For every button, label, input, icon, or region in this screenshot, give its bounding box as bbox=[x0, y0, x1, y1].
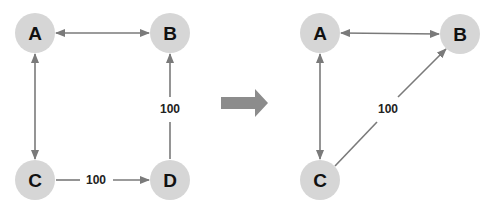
svg-text:A: A bbox=[28, 23, 42, 44]
svg-text:D: D bbox=[163, 170, 177, 191]
node-a: A bbox=[15, 13, 55, 53]
node-b: B bbox=[150, 13, 190, 53]
node-b: B bbox=[440, 14, 480, 54]
svg-text:B: B bbox=[453, 24, 467, 45]
node-c: C bbox=[300, 160, 340, 200]
svg-text:B: B bbox=[163, 23, 177, 44]
right-arrow-icon bbox=[221, 89, 268, 117]
edge-c-b-head bbox=[398, 49, 446, 97]
before-graph: 100 100 A B C D bbox=[15, 13, 190, 200]
svg-text:C: C bbox=[28, 170, 42, 191]
edge-a-b bbox=[341, 33, 439, 34]
edge-c-b bbox=[335, 122, 377, 166]
svg-text:A: A bbox=[313, 23, 327, 44]
edge-label-d-b: 100 bbox=[160, 102, 180, 116]
node-d: D bbox=[150, 160, 190, 200]
svg-text:C: C bbox=[313, 170, 327, 191]
edge-label-c-b: 100 bbox=[378, 102, 398, 116]
node-a: A bbox=[300, 13, 340, 53]
graph-diagram: 100 100 A B C D 100 bbox=[0, 0, 494, 204]
after-graph: 100 A B C bbox=[300, 13, 480, 200]
edge-label-c-d: 100 bbox=[86, 173, 106, 187]
node-c: C bbox=[15, 160, 55, 200]
